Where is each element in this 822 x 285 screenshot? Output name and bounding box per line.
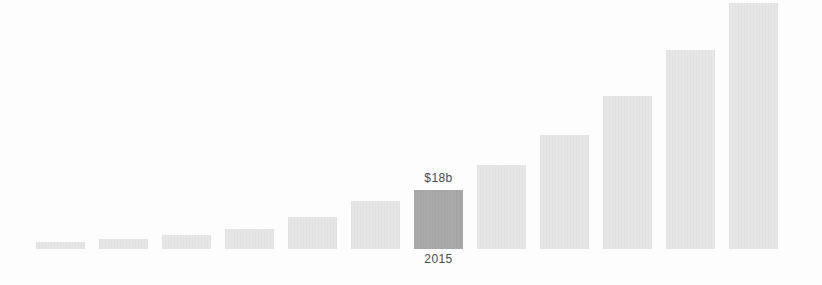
bar xyxy=(288,217,337,249)
bar xyxy=(225,229,274,249)
bar-chart: $18b2015 xyxy=(0,0,822,285)
bar xyxy=(603,96,652,249)
value-label: $18b xyxy=(424,171,452,185)
bar xyxy=(351,201,400,249)
bar xyxy=(477,165,526,249)
bars-container: $18b2015 xyxy=(36,3,778,249)
bar xyxy=(99,239,148,249)
bar xyxy=(666,50,715,249)
bar xyxy=(36,242,85,249)
bar xyxy=(162,235,211,249)
year-label: 2015 xyxy=(424,252,452,266)
bar xyxy=(540,135,589,249)
bar xyxy=(729,3,778,249)
bar-highlighted-2015: $18b2015 xyxy=(414,190,463,249)
